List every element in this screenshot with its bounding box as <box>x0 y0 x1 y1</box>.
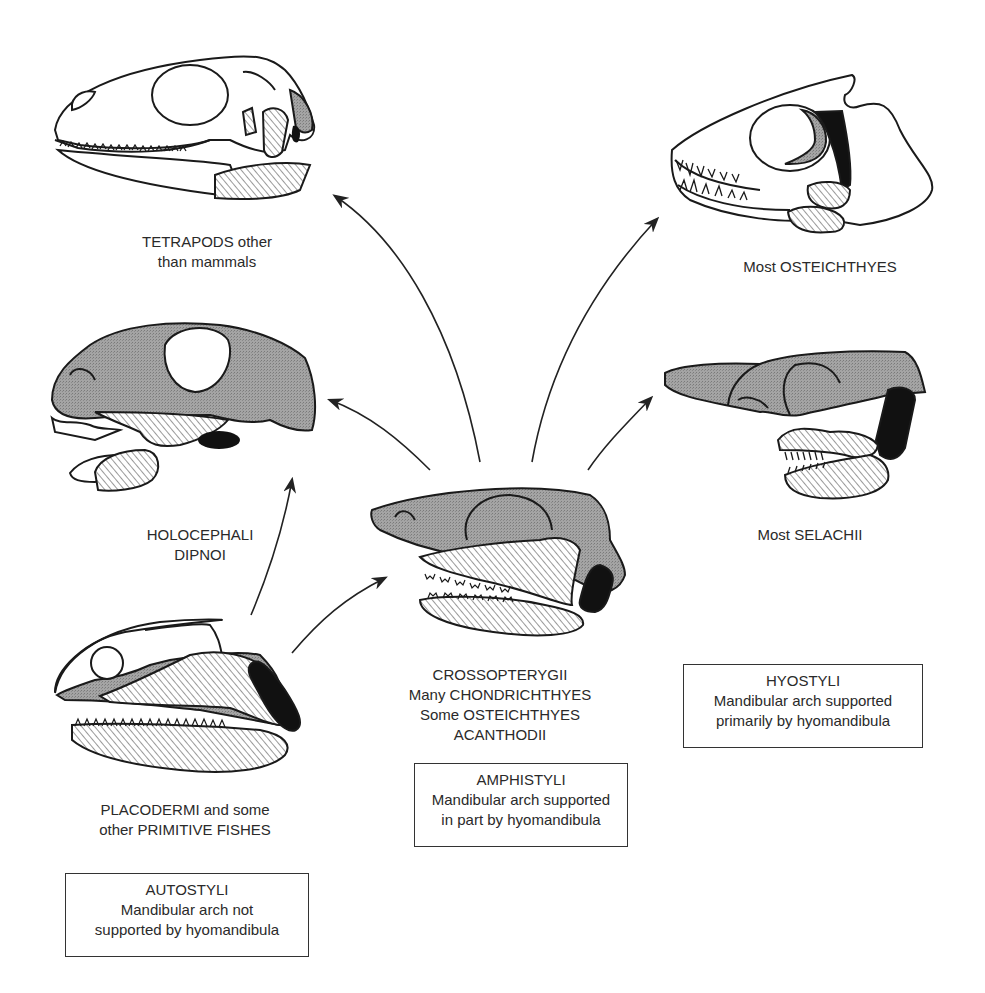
label-line: PLACODERMI and some <box>75 800 295 820</box>
selachii-skull-icon <box>665 351 925 498</box>
label-line: other PRIMITIVE FISHES <box>75 820 295 840</box>
tetrapod-skull-icon <box>55 56 314 199</box>
box-line: Mandibular arch not <box>70 900 304 920</box>
label-line: CROSSOPTERYGII <box>395 665 605 685</box>
holocephali-label: HOLOCEPHALI DIPNOI <box>120 525 280 565</box>
box-title: AMPHISTYLI <box>419 770 623 790</box>
arrow-crossopterygii-to-tetrapods-icon <box>335 196 480 462</box>
selachii-label: Most SELACHII <box>730 525 890 545</box>
arrow-crossopterygii-to-selachii-icon <box>588 398 651 470</box>
placodermi-skull-icon <box>55 620 300 772</box>
box-line: in part by hyomandibula <box>419 810 623 830</box>
crossopterygii-label: CROSSOPTERYGII Many CHONDRICHTHYES Some … <box>395 665 605 745</box>
box-title: HYOSTYLI <box>688 671 918 691</box>
arrow-crossopterygii-to-holocephali-icon <box>330 400 430 470</box>
label-line: DIPNOI <box>120 545 280 565</box>
label-line: than mammals <box>112 252 302 272</box>
arrow-placodermi-to-crossopterygii-icon <box>292 578 385 653</box>
hyostyli-box: HYOSTYLI Mandibular arch supported prima… <box>683 664 923 748</box>
box-line: primarily by hyomandibula <box>688 711 918 731</box>
label-line: TETRAPODS other <box>112 232 302 252</box>
box-line: Mandibular arch supported <box>419 790 623 810</box>
placodermi-label: PLACODERMI and some other PRIMITIVE FISH… <box>75 800 295 840</box>
label-line: Most SELACHII <box>730 525 890 545</box>
box-line: supported by hyomandibula <box>70 920 304 940</box>
holocephali-skull-icon <box>52 323 315 491</box>
arrow-crossopterygii-to-osteichthyes-icon <box>532 219 657 462</box>
label-line: ACANTHODII <box>395 725 605 745</box>
box-title: AUTOSTYLI <box>70 880 304 900</box>
label-line: Some OSTEICHTHYES <box>395 705 605 725</box>
osteichthyes-label: Most OSTEICHTHYES <box>725 257 915 277</box>
label-line: Many CHONDRICHTHYES <box>395 685 605 705</box>
osteichthyes-skull-icon <box>672 75 933 232</box>
amphistyli-box: AMPHISTYLI Mandibular arch supported in … <box>414 763 628 847</box>
label-line: HOLOCEPHALI <box>120 525 280 545</box>
crossopterygii-skull-icon <box>371 488 625 635</box>
autostyli-box: AUTOSTYLI Mandibular arch not supported … <box>65 873 309 957</box>
label-line: Most OSTEICHTHYES <box>725 257 915 277</box>
tetrapods-label: TETRAPODS other than mammals <box>112 232 302 272</box>
box-line: Mandibular arch supported <box>688 691 918 711</box>
